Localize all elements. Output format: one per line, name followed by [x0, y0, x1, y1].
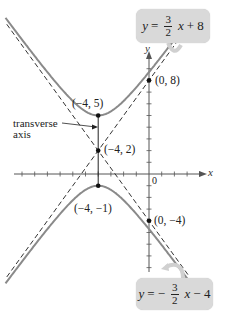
y-axis-label: y	[145, 43, 150, 54]
point-_-4_5_	[96, 113, 101, 118]
label-transverse-axis-line2: axis	[13, 129, 31, 140]
callout-asymptote-lower: y = − 3 2 x − 4	[136, 278, 213, 310]
point-_-4_-1_	[96, 183, 101, 188]
fraction: 3 2	[171, 282, 179, 306]
fraction: 3 2	[164, 14, 172, 38]
label-y-intercept-minus4: (0, −4)	[154, 215, 185, 227]
hyperbola-branches	[6, 16, 195, 288]
label-center: (−4, 2)	[104, 144, 135, 156]
equation-upper: y = 3 2 x + 8	[142, 14, 204, 38]
hyperbola-figure	[0, 0, 225, 313]
callout-tail-lower	[166, 265, 183, 278]
x-axis-label: x	[208, 167, 213, 178]
label-vertex-bottom: (−4, −1)	[74, 203, 112, 215]
equation-lower: y = − 3 2 x − 4	[139, 282, 211, 306]
point-_0_8_	[147, 78, 152, 83]
point-_0_-4_	[147, 219, 152, 224]
callout-tail-upper	[168, 43, 181, 51]
callout-arrow-icon	[161, 263, 169, 271]
point-_-4_2_	[96, 148, 101, 153]
callout-asymptote-upper: y = 3 2 x + 8	[136, 9, 210, 43]
label-vertex-top: (−4, 5)	[72, 98, 103, 110]
origin-label: 0	[152, 176, 157, 186]
label-y-intercept-8: (0, 8)	[155, 75, 180, 87]
pointer-arrowhead-icon	[92, 125, 98, 130]
